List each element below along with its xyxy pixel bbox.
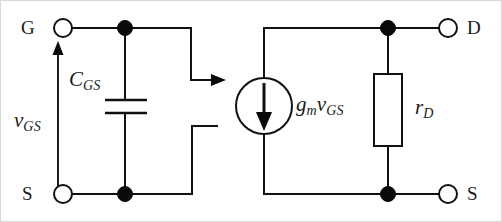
source-right-junction-dot [381,187,396,202]
circuit-diagram-figure: G S D S CGS vGS gmvGS rD [0,0,502,222]
capacitor-subscript: GS [83,78,101,93]
source-left-junction-dot [118,187,133,202]
capacitor-symbol: C [69,67,83,91]
coupling-arrow-head [211,74,226,86]
resistor-body [374,74,402,146]
gate-terminal-label: G [21,18,35,37]
transconductance-symbol: g [296,92,307,116]
drain-terminal-label: D [467,18,481,37]
resistor-symbol: r [415,95,423,119]
current-source-voltage-subscript: GS [326,103,344,118]
current-source-label: gmvGS [296,94,344,115]
resistor-label: rD [415,97,434,118]
current-source-voltage-symbol: v [317,92,326,116]
source-right-terminal-label: S [467,184,478,203]
source-left-terminal-circle[interactable] [54,185,72,203]
capacitor-label: CGS [69,69,101,90]
source-left-terminal-label: S [22,184,33,203]
voltage-subscript: GS [23,119,41,134]
gate-junction-dot [118,21,133,36]
gate-source-voltage-label: vGS [14,110,41,131]
resistor-subscript: D [423,106,433,121]
drain-terminal-circle[interactable] [439,19,457,37]
transconductance-subscript: m [307,103,317,118]
drain-junction-dot [381,21,396,36]
voltage-symbol: v [14,108,23,132]
source-right-terminal-circle[interactable] [439,185,457,203]
voltage-arrow-head [53,41,64,55]
gate-terminal-circle[interactable] [54,19,72,37]
